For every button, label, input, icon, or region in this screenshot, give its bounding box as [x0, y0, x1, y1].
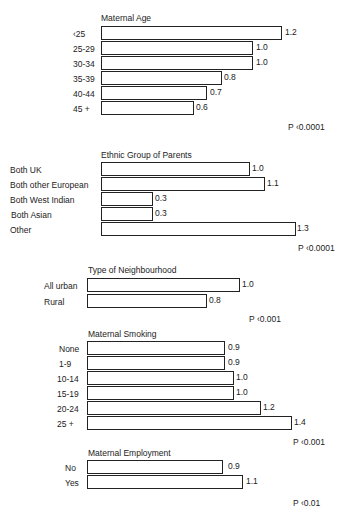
chart-title: Ethnic Group of Parents — [101, 150, 192, 160]
value-label: 0.7 — [210, 87, 222, 97]
bar — [87, 460, 223, 474]
bar — [101, 41, 253, 55]
bar — [87, 294, 207, 308]
category-label: 15-19 — [57, 389, 79, 399]
value-label: 1.2 — [263, 402, 275, 412]
bar — [101, 101, 194, 115]
bar-row: Rural 0.8 — [0, 294, 348, 309]
bar-row: 25 + 1.4 — [0, 416, 348, 431]
bar-row: Other 1.3 — [0, 222, 348, 237]
bar — [101, 222, 296, 236]
value-label: 0.9 — [228, 342, 240, 352]
bar — [101, 162, 250, 176]
bar — [101, 207, 153, 221]
category-label: 25-29 — [73, 44, 95, 54]
category-label: Yes — [65, 478, 79, 488]
category-label: 45 + — [73, 104, 90, 114]
bar — [101, 56, 253, 70]
p-value: P ‹0.001 — [293, 437, 325, 447]
value-label: 0.8 — [224, 72, 236, 82]
bar — [87, 401, 261, 415]
value-label: 1.1 — [246, 476, 258, 486]
value-label: 1.0 — [256, 42, 268, 52]
category-label: Both UK — [10, 165, 42, 175]
bar-row: Yes 1.1 — [0, 475, 348, 490]
chart-title: Maternal Employment — [88, 448, 171, 458]
bar — [87, 356, 225, 370]
bar-row: Both Asian 0.3 — [0, 207, 348, 222]
bar — [87, 341, 225, 355]
value-label: 1.0 — [242, 279, 254, 289]
value-label: 0.9 — [228, 461, 240, 471]
bar-row: 1-9 0.9 — [0, 356, 348, 371]
bar — [101, 26, 282, 40]
value-label: 1.0 — [236, 372, 248, 382]
category-label: No — [65, 463, 76, 473]
bar — [101, 192, 153, 206]
value-label: 0.9 — [228, 357, 240, 367]
chart-title: Maternal Smoking — [88, 329, 157, 339]
value-label: 1.0 — [236, 387, 248, 397]
chart-title: Maternal Age — [101, 13, 151, 23]
p-value: P ‹0.0001 — [288, 122, 325, 132]
bar-row: 15-19 1.0 — [0, 386, 348, 401]
category-label: 30-34 — [73, 59, 95, 69]
bar — [87, 475, 243, 489]
value-label: 1.4 — [294, 417, 306, 427]
category-label: 20-24 — [57, 404, 79, 414]
bar-row: No 0.9 — [0, 460, 348, 475]
bar — [101, 71, 222, 85]
category-label: Both West Indian — [10, 195, 75, 205]
bar — [87, 278, 240, 292]
p-value: P ‹0.01 — [293, 498, 320, 508]
category-label: Rural — [44, 297, 64, 307]
value-label: 0.8 — [209, 295, 221, 305]
category-label: Both other European — [10, 180, 88, 190]
bar — [87, 371, 234, 385]
value-label: 1.1 — [267, 178, 279, 188]
bar-row: 10-14 1.0 — [0, 371, 348, 386]
category-label: 40-44 — [73, 89, 95, 99]
value-label: 1.0 — [256, 57, 268, 67]
value-label: 0.6 — [196, 102, 208, 112]
bar — [101, 86, 207, 100]
category-label: All urban — [44, 281, 78, 291]
value-label: 1.2 — [285, 27, 297, 37]
category-label: Other — [10, 225, 31, 235]
bar-row: 25-29 1.0 — [0, 41, 348, 56]
bar-row: Both West Indian 0.3 — [0, 192, 348, 207]
bar-row: 20-24 1.2 — [0, 401, 348, 416]
value-label: 1.3 — [297, 223, 309, 233]
category-label: 25 + — [57, 419, 74, 429]
category-label: 35-39 — [73, 74, 95, 84]
value-label: 1.0 — [252, 163, 264, 173]
bar-row: 45 + 0.6 — [0, 101, 348, 116]
p-value: P ‹0.0001 — [298, 243, 335, 253]
category-label: Both Asian — [11, 210, 52, 220]
bar-row: 35-39 0.8 — [0, 71, 348, 86]
bar-row: 30-34 1.0 — [0, 56, 348, 71]
chart-title: Type of Neighbourhood — [88, 265, 176, 275]
bar — [87, 386, 234, 400]
p-value: P ‹0.001 — [249, 314, 281, 324]
value-label: 0.3 — [155, 208, 167, 218]
value-label: 0.3 — [155, 193, 167, 203]
category-label: None — [59, 344, 79, 354]
bar-row: All urban 1.0 — [0, 278, 348, 293]
bar — [101, 177, 265, 191]
category-label: 1-9 — [59, 359, 71, 369]
bar-row: 40-44 0.7 — [0, 86, 348, 101]
bar-row: None 0.9 — [0, 341, 348, 356]
bar-row: Both other European 1.1 — [0, 177, 348, 192]
bar-row: ‹25 1.2 — [0, 26, 348, 41]
bar-row: Both UK 1.0 — [0, 162, 348, 177]
category-label: ‹25 — [73, 29, 85, 39]
category-label: 10-14 — [57, 374, 79, 384]
bar — [87, 416, 292, 430]
